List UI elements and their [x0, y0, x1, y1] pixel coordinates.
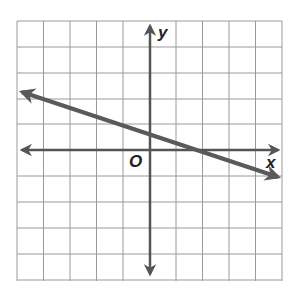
- coordinate-plane: y x O: [0, 0, 292, 292]
- x-axis-label: x: [265, 153, 277, 172]
- y-axis-label: y: [157, 23, 169, 42]
- origin-label: O: [129, 152, 142, 171]
